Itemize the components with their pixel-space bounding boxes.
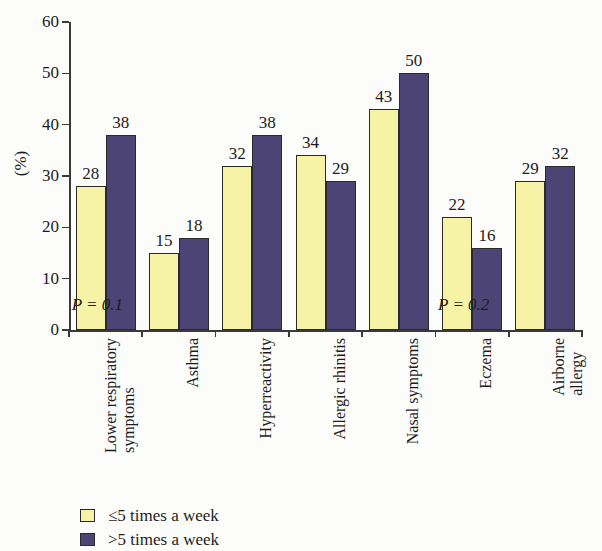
y-tick-label: 10 (25, 270, 59, 287)
bar-value-label: 29 (324, 160, 358, 177)
x-axis-category-label: Asthma (184, 338, 202, 388)
y-tick-label: 50 (25, 64, 59, 81)
y-tick-mark (62, 73, 69, 75)
bar-value-label: 32 (220, 145, 254, 162)
bar-value-label: 29 (513, 160, 547, 177)
y-tick-label: 40 (25, 116, 59, 133)
x-axis-line (69, 330, 582, 332)
y-tick-mark (62, 21, 69, 23)
x-tick-mark (361, 330, 363, 337)
bar (149, 253, 179, 330)
p-value-annotation: P = 0.2 (438, 296, 489, 313)
legend-label: >5 times a week (108, 531, 219, 548)
bar (296, 155, 326, 330)
x-tick-mark (215, 330, 217, 337)
bar-value-label: 50 (397, 52, 431, 69)
bar (326, 181, 356, 330)
legend: ≤5 times a week>5 times a week (80, 505, 219, 551)
bar-value-label: 28 (74, 165, 108, 182)
x-tick-mark (435, 330, 437, 337)
bar-value-label: 18 (177, 217, 211, 234)
bar (399, 73, 429, 330)
bar (252, 135, 282, 330)
bar (515, 181, 545, 330)
bar-value-label: 38 (104, 114, 138, 131)
bar (222, 166, 252, 330)
x-axis-category-label: Allergic rhinitis (331, 338, 349, 439)
y-tick-label: 60 (25, 13, 59, 30)
x-axis-category-label: Hyperreactivity (257, 338, 275, 438)
x-axis-category-label: Airborne allergy (550, 338, 586, 396)
bar-value-label: 15 (147, 232, 181, 249)
x-tick-mark (508, 330, 510, 337)
bar (472, 248, 502, 330)
y-tick-label: 0 (25, 321, 59, 338)
x-axis-category-label: Nasal symptoms (404, 338, 422, 444)
y-tick-label: 30 (25, 167, 59, 184)
bar (179, 238, 209, 330)
y-tick-label: 20 (25, 218, 59, 235)
x-axis-category-label: Eczema (477, 338, 495, 389)
bar (545, 166, 575, 330)
p-value-annotation: P = 0.1 (72, 296, 123, 313)
y-axis-line (69, 22, 71, 331)
y-tick-mark (62, 278, 69, 280)
y-tick-mark (62, 227, 69, 229)
legend-swatch (80, 533, 95, 546)
x-tick-mark (68, 330, 70, 337)
legend-label: ≤5 times a week (108, 507, 219, 524)
bar-value-label: 34 (294, 134, 328, 151)
x-axis-category-label: Lower respiratory symptoms (102, 338, 138, 453)
bar (369, 109, 399, 330)
legend-swatch (80, 509, 95, 522)
bar-value-label: 43 (367, 88, 401, 105)
legend-item: ≤5 times a week (80, 505, 219, 526)
bar-value-label: 32 (543, 145, 577, 162)
legend-item: >5 times a week (80, 529, 219, 550)
bar-value-label: 16 (470, 227, 504, 244)
bar-value-label: 38 (250, 114, 284, 131)
x-tick-mark (141, 330, 143, 337)
bar-chart: (%) 0102030405060 2838151832383429435022… (0, 0, 602, 551)
y-tick-mark (62, 175, 69, 177)
y-tick-mark (62, 124, 69, 126)
x-tick-mark (288, 330, 290, 337)
bar-value-label: 22 (440, 196, 474, 213)
x-tick-mark (581, 330, 583, 337)
